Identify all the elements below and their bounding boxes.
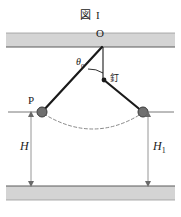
pendulum-diagram — [0, 0, 181, 217]
figure-title: 図 I — [0, 10, 181, 21]
height-left-label: H — [20, 140, 29, 152]
height-right-label: H1 — [153, 140, 166, 155]
ceiling-bar — [6, 33, 175, 47]
nail-label: 釘 — [110, 74, 119, 83]
angle-label: θ0 — [76, 57, 84, 70]
bob-left-label: P — [28, 95, 34, 106]
height-right-label-symbol: H — [153, 139, 162, 153]
height-right-label-subscript: 1 — [162, 146, 166, 155]
swing-path-arc — [44, 114, 141, 129]
pivot-label: O — [96, 28, 104, 39]
string-pivot-to-left-bob — [42, 47, 102, 112]
dimension-h1-right — [145, 111, 151, 187]
angle-arc — [88, 69, 103, 73]
angle-label-subscript: 0 — [81, 62, 85, 70]
figure-container: 図 I O θ0 釘 P H H1 — [0, 0, 181, 217]
nail-dot — [102, 78, 107, 83]
floor-bar — [6, 186, 175, 200]
string-nail-to-right-bob — [104, 80, 143, 112]
